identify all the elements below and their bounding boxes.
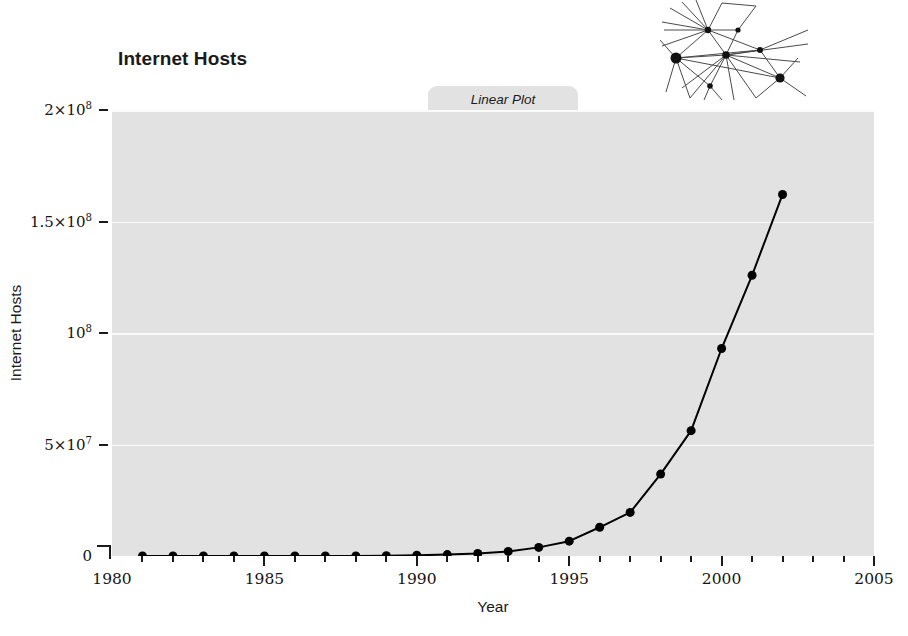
data-point [687,426,696,435]
plot-frame [112,110,874,556]
data-point [595,523,604,532]
chart-title: Internet Hosts [118,48,247,70]
x-tick-label: 2000 [702,570,741,588]
x-tick-mark [873,556,875,566]
x-tick-mark-minor [477,556,479,562]
y-tick-label: 2×108 [0,101,92,119]
x-tick-mark [721,556,723,566]
x-tick-mark-minor [172,556,174,562]
x-tick-label: 1990 [397,570,436,588]
x-tick-mark-minor [751,556,753,562]
y-tick-label: 0 [0,547,92,565]
data-point [656,470,665,479]
y-tick-label: 5×107 [0,436,92,454]
x-tick-mark-minor [141,556,143,562]
data-point [473,549,482,556]
y-tick-mark [99,109,108,111]
data-point [748,271,757,280]
y-tick-label: 1.5×108 [0,213,92,231]
plot-area [112,110,874,556]
network-graph-svg [660,0,810,100]
data-point [717,344,726,353]
data-line [142,194,782,556]
x-tick-mark-minor [599,556,601,562]
y-tick-mark [99,221,108,223]
x-tick-mark-minor [446,556,448,562]
x-axis-label: Year [477,598,508,616]
x-tick-mark [568,556,570,566]
x-tick-mark-minor [294,556,296,562]
data-point [565,537,574,546]
tab-linear-plot-label: Linear Plot [471,92,536,110]
x-tick-label: 1980 [92,570,131,588]
x-tick-mark-minor [385,556,387,562]
data-point [626,508,635,517]
y-axis-label: Internet Hosts [7,285,25,382]
y-tick-mark [99,332,108,334]
origin-corner-mark [97,545,111,559]
x-tick-mark-minor [507,556,509,562]
x-tick-label: 2005 [854,570,893,588]
x-tick-mark-minor [629,556,631,562]
x-tick-mark-minor [690,556,692,562]
x-tick-mark-minor [660,556,662,562]
x-tick-label: 1995 [549,570,588,588]
data-point [534,543,543,552]
data-point [504,547,513,556]
x-tick-label: 1985 [245,570,284,588]
x-tick-mark-minor [812,556,814,562]
x-tick-mark [263,556,265,566]
x-tick-mark-minor [202,556,204,562]
data-markers [138,190,787,556]
x-tick-mark-minor [324,556,326,562]
x-tick-mark-minor [782,556,784,562]
data-series-internet-hosts [112,110,874,556]
x-tick-mark-minor [233,556,235,562]
network-graph-icon [660,0,810,100]
x-tick-mark-minor [355,556,357,562]
x-tick-mark-minor [843,556,845,562]
data-point [778,190,787,199]
x-tick-mark [416,556,418,566]
y-tick-mark [99,444,108,446]
x-tick-mark-minor [538,556,540,562]
